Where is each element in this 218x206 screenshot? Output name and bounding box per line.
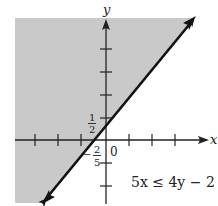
x-intercept-denominator: 5 [94,157,100,168]
y-intercept-label: 1 2 [88,112,96,135]
y-axis-label: y [102,2,111,17]
origin-label: 0 [110,145,118,159]
x-axis-label: x [210,132,218,147]
y-intercept-denominator: 2 [89,124,95,135]
y-intercept-numerator: 1 [89,112,95,123]
x-intercept-numerator: 2 [94,144,100,155]
inequality-label: 5x ≤ 4y − 2 [131,174,215,190]
inequality-graph: y x 1 2 − 2 5 0 5x ≤ 4y − 2 [0,0,218,206]
x-intercept-sign: − [83,149,91,160]
